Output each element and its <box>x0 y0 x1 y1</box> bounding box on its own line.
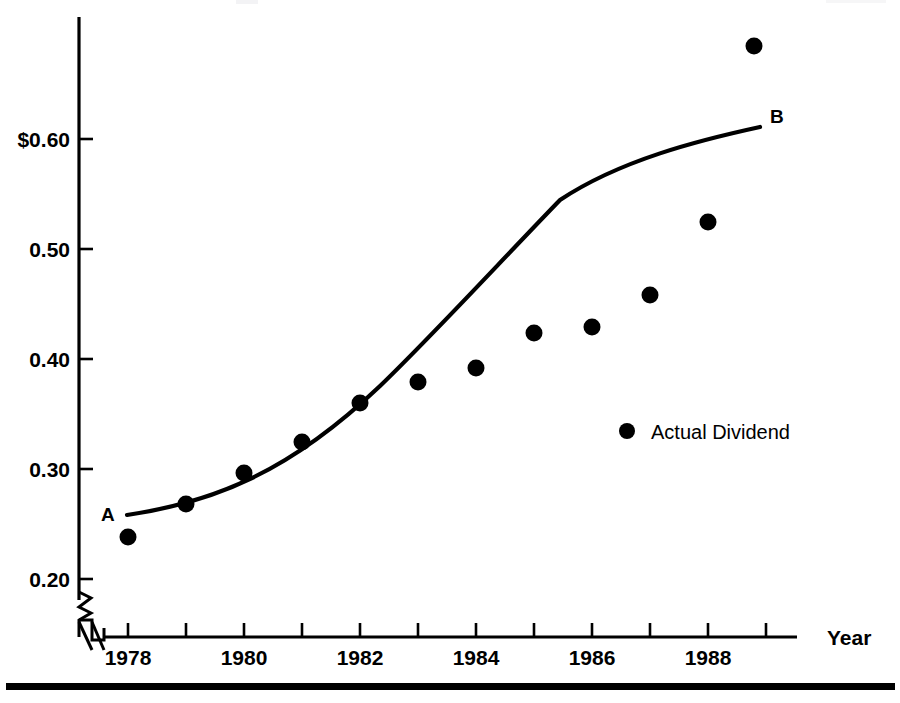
legend: Actual Dividend <box>619 421 790 443</box>
y-axis-break-icon <box>79 592 91 637</box>
trend-curve-group <box>127 127 760 515</box>
y-tick-marks <box>79 139 93 579</box>
data-point <box>468 360 485 377</box>
annotation-label-a: A <box>101 504 115 525</box>
data-point <box>294 434 311 451</box>
legend-label-actual-dividend: Actual Dividend <box>651 421 790 443</box>
x-tick-label-1982: 1982 <box>337 646 384 669</box>
y-tick-label-060: $0.60 <box>17 128 70 151</box>
trend-curve-path <box>127 127 760 515</box>
legend-marker-icon <box>619 423 635 439</box>
data-point <box>746 38 763 55</box>
y-tick-labels: $0.60 0.50 0.40 0.30 0.20 <box>17 128 70 591</box>
x-tick-label-1988: 1988 <box>685 646 732 669</box>
x-tick-label-1986: 1986 <box>569 646 616 669</box>
data-point <box>236 465 253 482</box>
y-tick-label-040: 0.40 <box>29 348 70 371</box>
data-point <box>526 325 543 342</box>
annotation-label-b: B <box>770 106 784 127</box>
y-tick-label-020: 0.20 <box>29 568 70 591</box>
y-tick-label-030: 0.30 <box>29 458 70 481</box>
y-tick-label-050: 0.50 <box>29 238 70 261</box>
data-point <box>410 374 427 391</box>
actual-dividend-series <box>120 38 763 546</box>
x-tick-labels: 1978 1980 1982 1984 1986 1988 <box>105 646 732 669</box>
x-tick-label-1978: 1978 <box>105 646 152 669</box>
data-point <box>352 395 369 412</box>
dividend-chart-svg: $0.60 0.50 0.40 0.30 0.20 1978 1980 1982 <box>0 0 900 703</box>
data-point <box>700 214 717 231</box>
x-tick-label-1980: 1980 <box>221 646 268 669</box>
bottom-divider-rule <box>6 683 895 690</box>
x-tick-label-1984: 1984 <box>453 646 500 669</box>
data-point <box>642 287 659 304</box>
x-axis-break-icon <box>79 620 104 650</box>
data-point <box>120 529 137 546</box>
scan-artifact <box>236 0 886 4</box>
chart-figure: $0.60 0.50 0.40 0.30 0.20 1978 1980 1982 <box>0 0 900 703</box>
data-point <box>178 496 195 513</box>
x-axis-title: Year <box>827 626 871 649</box>
x-tick-marks <box>128 623 766 637</box>
data-point <box>584 319 601 336</box>
